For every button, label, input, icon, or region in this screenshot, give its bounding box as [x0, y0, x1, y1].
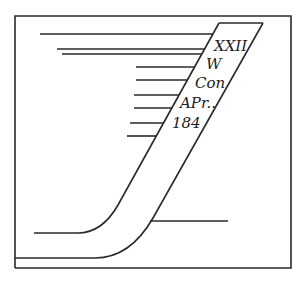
band-right-edge [95, 23, 263, 258]
diagram-canvas: XXII W Con APr.. 184 [0, 0, 305, 281]
label-w: W [206, 55, 223, 73]
label-con: Con [195, 74, 225, 92]
label-xxii: XXII [213, 37, 248, 55]
label-184: 184 [172, 114, 201, 132]
label-apr: APr.. [178, 94, 216, 112]
